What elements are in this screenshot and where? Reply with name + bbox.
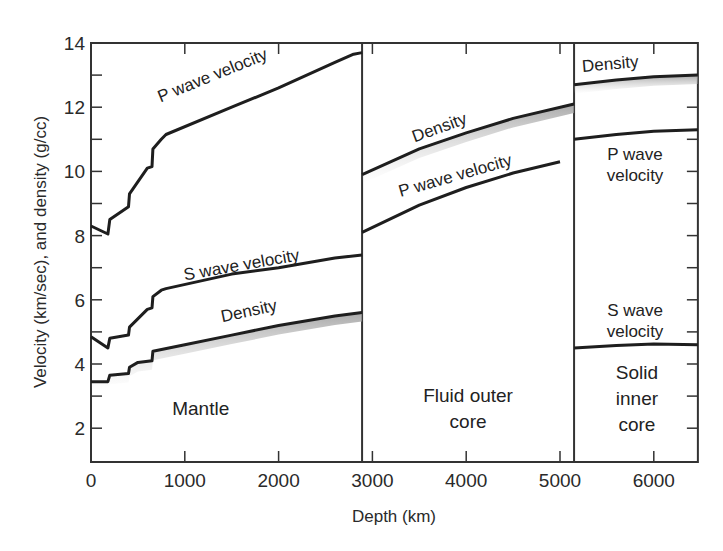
y-tick-label: 12	[64, 97, 85, 118]
curve-label: S wave velocity	[182, 245, 301, 284]
x-tick-label: 2000	[257, 470, 299, 491]
x-tick-label: 1000	[164, 470, 206, 491]
y-tick-label: 10	[64, 161, 85, 182]
series-p-wave-velocity-inner-core	[574, 130, 698, 140]
x-tick-label: 6000	[633, 470, 675, 491]
y-tick-label: 8	[74, 226, 85, 247]
region-label: core	[618, 414, 655, 435]
region-label: inner	[616, 388, 659, 409]
y-axis-title: Velocity (km/sec), and density (g/cc)	[31, 116, 50, 388]
x-tick-label: 0	[86, 470, 97, 491]
y-tick-label: 14	[64, 33, 86, 54]
curve-label: velocity	[607, 322, 664, 341]
y-tick-label: 4	[74, 354, 85, 375]
series-s-wave-velocity-inner-core	[574, 344, 698, 348]
x-tick-label: 3000	[351, 470, 393, 491]
x-axis-title: Depth (km)	[352, 507, 436, 526]
curve-label: P wave	[607, 145, 662, 164]
region-label: Mantle	[172, 398, 229, 419]
x-tick-label: 5000	[539, 470, 581, 491]
y-tick-label: 6	[74, 290, 85, 311]
curve-label: S wave	[607, 301, 663, 320]
region-labels: MantleFluid outercoreSolidinnercore	[172, 362, 658, 435]
seismic-profile-chart: 2468101214 0100020003000400050006000 P w…	[0, 0, 723, 551]
y-tick-label: 2	[74, 418, 85, 439]
region-label: Solid	[616, 362, 658, 383]
density-shading	[91, 75, 698, 391]
x-axis: 0100020003000400050006000	[86, 43, 675, 491]
x-tick-label: 4000	[445, 470, 487, 491]
curve-label: Density	[219, 296, 279, 326]
curve-label: Density	[581, 52, 640, 76]
curve-label: velocity	[607, 166, 664, 185]
region-label: Fluid outer	[423, 385, 513, 406]
region-label: core	[450, 411, 487, 432]
